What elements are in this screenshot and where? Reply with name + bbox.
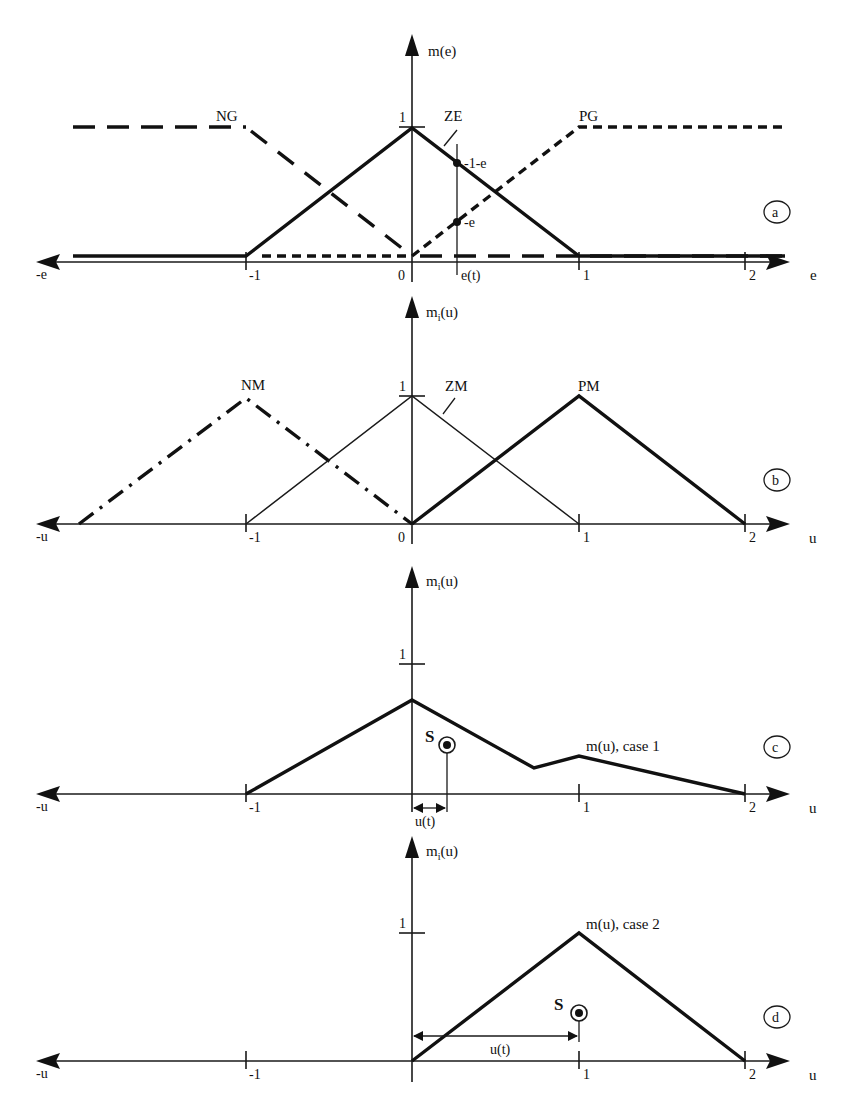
panel-b: mi(u) NM ZM PM 1 -u -1 0 1 2 u b [36, 296, 817, 546]
x-tick-label-0: 0 [398, 530, 405, 545]
nm-curve [79, 398, 412, 524]
pm-curve [412, 396, 745, 524]
fuzzy-membership-figure: m(e) NG ZE PG 1 -1-e -e -e -1 0 e(t) 1 2… [0, 0, 859, 1113]
y-tick-label: 1 [399, 647, 406, 662]
pg-curve [412, 127, 785, 256]
x-neg-label: -e [36, 267, 47, 282]
y-axis-arrow-icon [405, 296, 419, 318]
ng-label: NG [216, 108, 238, 124]
zm-leader-line [443, 398, 455, 414]
x-tick-label-1: 1 [583, 1067, 590, 1082]
x-tick-label-2: 2 [749, 530, 756, 545]
aggregated-curve-case-1 [246, 700, 745, 794]
ze-curve [73, 128, 785, 256]
y-tick-label: 1 [399, 110, 406, 125]
curve-label: m(u), case 2 [586, 916, 660, 933]
pm-label: PM [578, 378, 600, 394]
x-tick-label-neg1: -1 [249, 530, 261, 545]
panel-d: mi(u) 1 S m(u), case 2 -u -1 1 2 u(t) u … [36, 836, 817, 1083]
curve-label: m(u), case 1 [586, 738, 660, 755]
panel-badge-d: d [772, 1010, 779, 1025]
x-axis-label: e [810, 267, 817, 283]
centroid-dot-icon [443, 741, 451, 749]
pg-label: PG [579, 108, 598, 124]
x-neg-label: -u [36, 529, 48, 544]
x-axis-label: u [809, 800, 817, 816]
output-label: u(t) [415, 814, 436, 830]
y-axis-arrow-icon [405, 566, 419, 588]
x-tick-label-2: 2 [749, 800, 756, 815]
y-axis-label: m(e) [428, 43, 456, 60]
ze-label: ZE [444, 108, 462, 124]
y-axis-arrow-icon [405, 34, 419, 56]
panel-badge-c: c [772, 740, 778, 755]
panel-c: mi(u) 1 S m(u), case 1 -u -1 1 2 u(t) u … [36, 566, 817, 830]
panel-badge-b: b [772, 473, 779, 488]
x-tick-label-neg1: -1 [249, 268, 261, 283]
panel-badge-a: a [772, 205, 779, 220]
nm-label: NM [241, 377, 265, 393]
x-tick-label-1: 1 [583, 268, 590, 283]
x-tick-label-neg1: -1 [249, 800, 261, 815]
x-axis-label: u [809, 1067, 817, 1083]
ze-leader-line [444, 130, 457, 146]
x-neg-label: -u [36, 1066, 48, 1081]
panel-a: m(e) NG ZE PG 1 -1-e -e -e -1 0 e(t) 1 2… [36, 34, 817, 284]
x-tick-label-neg1: -1 [249, 1067, 261, 1082]
zm-label: ZM [445, 378, 468, 394]
y-tick-label: 1 [399, 379, 406, 394]
lower-intersection-dot-icon [453, 218, 461, 226]
x-tick-label-0: 0 [398, 268, 405, 283]
y-axis-arrow-icon [405, 836, 419, 858]
centroid-label: S [425, 727, 434, 746]
centroid-dot-icon [575, 1009, 583, 1017]
centroid-label: S [554, 995, 563, 1014]
x-tick-label-1: 1 [583, 800, 590, 815]
x-tick-label-2: 2 [749, 268, 756, 283]
y-axis-label: mi(u) [426, 304, 458, 323]
y-tick-label: 1 [399, 916, 406, 931]
x-axis-label: u [809, 530, 817, 546]
x-tick-label-1: 1 [583, 530, 590, 545]
lower-point-label: -e [464, 215, 475, 230]
x-neg-label: -u [36, 799, 48, 814]
upper-intersection-dot-icon [453, 159, 461, 167]
ng-slope [251, 131, 412, 256]
input-label: e(t) [461, 268, 481, 284]
output-label: u(t) [490, 1042, 511, 1058]
x-tick-label-2: 2 [749, 1067, 756, 1082]
y-axis-label: mi(u) [426, 573, 458, 592]
upper-point-label: -1-e [464, 156, 487, 171]
y-axis-label: mi(u) [426, 843, 458, 862]
